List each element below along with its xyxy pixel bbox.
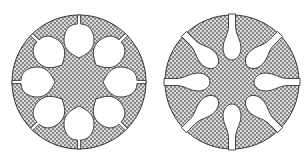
diagram-canvas — [0, 0, 308, 163]
left-cross-section — [12, 15, 146, 149]
right-cross-section — [164, 14, 300, 150]
